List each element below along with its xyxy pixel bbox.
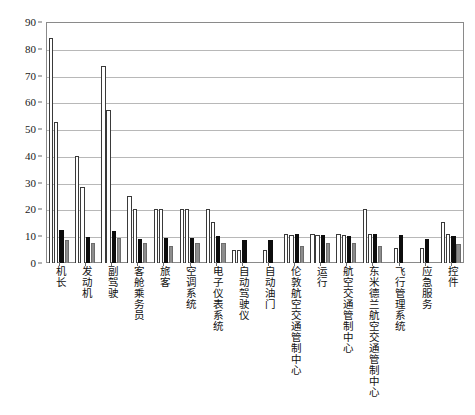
bar bbox=[300, 246, 304, 263]
x-tick-label: 运行 bbox=[315, 266, 326, 288]
y-tick-mark bbox=[38, 75, 42, 76]
bar bbox=[154, 209, 158, 263]
bar-group bbox=[336, 22, 356, 263]
x-tick-label: 空调系统 bbox=[184, 266, 195, 310]
bar-chart: 0102030405060708090 机长发动机副驾驶客舱乘务员旅客空调系统电… bbox=[0, 0, 475, 415]
bar bbox=[295, 234, 299, 263]
bar bbox=[169, 246, 173, 263]
bar bbox=[315, 235, 319, 263]
x-tick-label: 自动驾驶仪 bbox=[236, 266, 247, 321]
x-tick-label: 东米德兰航空交通管制中心 bbox=[367, 266, 378, 398]
x-tick-label: 飞行管理系统 bbox=[393, 266, 404, 332]
x-tick-label: 控件 bbox=[445, 266, 456, 288]
bar-group bbox=[363, 22, 383, 263]
y-tick-label: 70 bbox=[25, 70, 36, 81]
bar bbox=[237, 250, 241, 263]
bar-group bbox=[284, 22, 304, 263]
y-tick-mark bbox=[38, 48, 42, 49]
bar bbox=[49, 38, 53, 263]
bar-group bbox=[127, 22, 147, 263]
bar bbox=[310, 234, 314, 263]
bar bbox=[59, 230, 63, 263]
bar bbox=[206, 209, 210, 263]
bar bbox=[164, 238, 168, 263]
bar-group bbox=[415, 22, 435, 263]
bar bbox=[216, 236, 220, 263]
y-tick-mark bbox=[38, 129, 42, 130]
bar bbox=[180, 209, 184, 263]
bar bbox=[289, 235, 293, 263]
bar bbox=[117, 238, 121, 263]
x-tick-label: 机长 bbox=[54, 266, 65, 288]
bar bbox=[101, 66, 105, 263]
bar bbox=[106, 110, 110, 263]
bar bbox=[221, 243, 225, 263]
bar bbox=[91, 243, 95, 263]
bar bbox=[284, 234, 288, 263]
bar bbox=[336, 234, 340, 263]
bar bbox=[232, 250, 236, 263]
bar bbox=[342, 235, 346, 263]
bar bbox=[352, 243, 356, 263]
bar bbox=[394, 248, 398, 263]
bar bbox=[195, 243, 199, 263]
x-tick-label: 伦敦航空交通管制中心 bbox=[289, 266, 300, 376]
y-tick-label: 30 bbox=[25, 177, 36, 188]
bar bbox=[185, 209, 189, 263]
bar bbox=[112, 231, 116, 263]
bar bbox=[363, 209, 367, 263]
bar-group bbox=[75, 22, 95, 263]
bar-group bbox=[206, 22, 226, 263]
bar bbox=[86, 237, 90, 263]
bar bbox=[190, 238, 194, 263]
bar bbox=[378, 246, 382, 263]
bar bbox=[143, 243, 147, 263]
bar-group bbox=[154, 22, 174, 263]
bar bbox=[425, 239, 429, 263]
bar bbox=[127, 196, 131, 263]
bar-group bbox=[101, 22, 121, 263]
y-tick-mark bbox=[38, 155, 42, 156]
x-tick-label: 旅客 bbox=[158, 266, 169, 288]
bar-group bbox=[49, 22, 69, 263]
bar bbox=[321, 235, 325, 263]
x-tick-label: 电子仪表系统 bbox=[210, 266, 221, 332]
x-axis: 机长发动机副驾驶客舱乘务员旅客空调系统电子仪表系统自动驾驶仪自动油门伦敦航空交通… bbox=[46, 266, 464, 415]
bar bbox=[65, 240, 69, 263]
x-tick-label: 航空交通管制中心 bbox=[341, 266, 352, 354]
bar-group bbox=[441, 22, 461, 263]
bar bbox=[75, 156, 79, 263]
bar bbox=[446, 234, 450, 263]
bar-group bbox=[180, 22, 200, 263]
bar-group bbox=[232, 22, 252, 263]
y-tick-label: 90 bbox=[25, 17, 36, 28]
bars-layer bbox=[46, 22, 464, 263]
bar bbox=[159, 209, 163, 263]
bar bbox=[268, 240, 272, 263]
y-tick-label: 20 bbox=[25, 204, 36, 215]
bar bbox=[138, 239, 142, 263]
x-tick-label: 发动机 bbox=[80, 266, 91, 299]
bar bbox=[441, 222, 445, 264]
y-tick-label: 10 bbox=[25, 231, 36, 242]
bar bbox=[373, 234, 377, 263]
bar bbox=[326, 243, 330, 263]
y-tick-mark bbox=[38, 263, 42, 264]
y-tick-mark bbox=[38, 236, 42, 237]
bar-group bbox=[389, 22, 409, 263]
y-tick-label: 0 bbox=[31, 258, 37, 269]
x-tick-label: 应急服务 bbox=[419, 266, 430, 310]
bar bbox=[80, 187, 84, 263]
bar bbox=[347, 236, 351, 263]
bar bbox=[451, 236, 455, 263]
bar bbox=[420, 248, 424, 263]
bar bbox=[54, 122, 58, 263]
bar bbox=[368, 234, 372, 263]
y-tick-mark bbox=[38, 182, 42, 183]
y-tick-mark bbox=[38, 102, 42, 103]
bar bbox=[133, 209, 137, 263]
bar bbox=[242, 240, 246, 263]
bar-group bbox=[310, 22, 330, 263]
y-tick-label: 60 bbox=[25, 97, 36, 108]
bar bbox=[263, 250, 267, 263]
